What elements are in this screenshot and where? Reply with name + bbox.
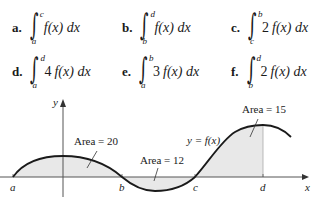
curve-label: y = f(x) — [186, 134, 220, 147]
function-graph: y x a b c d Area = 20 Area = 12 Area = 1… — [0, 0, 321, 202]
area-label-3: Area = 15 — [242, 103, 287, 115]
area-label-1: Area = 20 — [74, 135, 119, 147]
area-label-2: Area = 12 — [140, 154, 184, 166]
tick-label-a: a — [10, 181, 16, 193]
tick-label-d: d — [260, 181, 266, 193]
x-axis-label: x — [304, 181, 310, 193]
y-axis-label: y — [52, 96, 58, 108]
x-axis-arrow-icon — [302, 174, 309, 180]
y-axis-arrow-icon — [60, 99, 66, 107]
shaded-region-c-d — [195, 125, 263, 177]
tick-label-c: c — [193, 181, 198, 193]
tick-label-b: b — [119, 181, 125, 193]
